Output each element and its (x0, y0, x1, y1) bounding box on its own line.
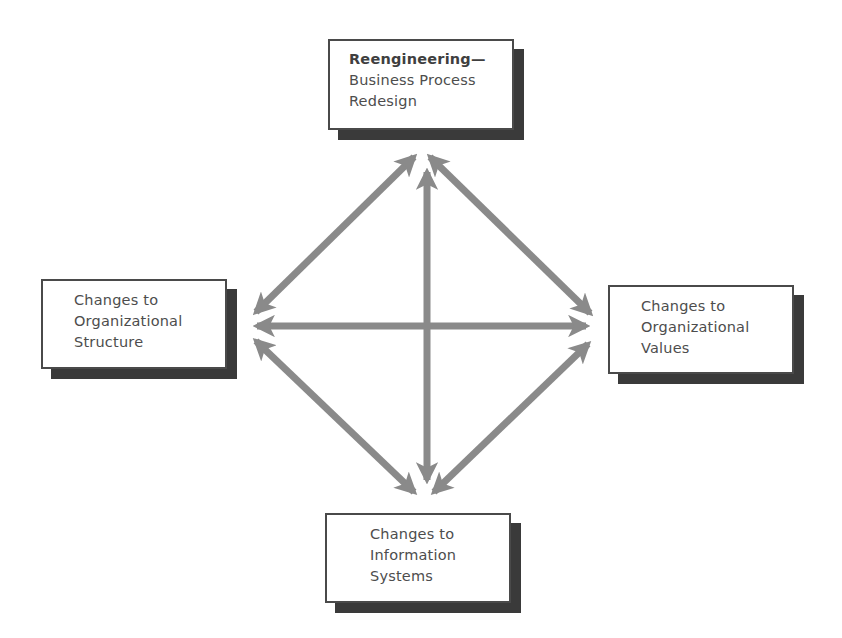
node-reengineering-line3: Redesign (349, 91, 512, 112)
node-organizational-values-line2: Organizational (641, 317, 792, 338)
node-information-systems-line2: Information (370, 545, 509, 566)
arrow-top-right (430, 157, 590, 313)
node-reengineering-title: Reengineering— (349, 49, 512, 70)
node-organizational-structure: Changes to Organizational Structure (41, 279, 227, 369)
node-organizational-values: Changes to Organizational Values (608, 285, 794, 374)
node-organizational-structure-line3: Structure (74, 332, 225, 353)
node-information-systems: Changes to Information Systems (325, 513, 511, 603)
node-reengineering-line2: Business Process (349, 70, 512, 91)
node-information-systems-line1: Changes to (370, 524, 509, 545)
node-organizational-structure-text: Changes to Organizational Structure (43, 290, 225, 353)
node-information-systems-text: Changes to Information Systems (327, 524, 509, 587)
arrow-left-bottom (256, 341, 414, 492)
diagram-canvas: Reengineering— Business Process Redesign… (0, 0, 842, 638)
node-information-systems-line3: Systems (370, 566, 509, 587)
node-organizational-structure-line2: Organizational (74, 311, 225, 332)
node-organizational-structure-line1: Changes to (74, 290, 225, 311)
node-reengineering-text: Reengineering— Business Process Redesign (330, 49, 512, 112)
arrow-top-left (256, 157, 414, 312)
node-organizational-values-text: Changes to Organizational Values (610, 296, 792, 359)
node-reengineering: Reengineering— Business Process Redesign (328, 39, 514, 130)
node-organizational-values-line1: Changes to (641, 296, 792, 317)
arrow-right-bottom (434, 344, 588, 492)
node-organizational-values-line3: Values (641, 338, 792, 359)
